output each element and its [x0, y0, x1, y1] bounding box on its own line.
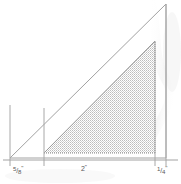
- inch-mark: ": [21, 165, 23, 171]
- technical-drawing-canvas: 5/8" 2" 1/4": [0, 0, 181, 184]
- dimension-label-middle: 2": [81, 165, 87, 172]
- dimension-label-left: 5/8": [13, 166, 23, 174]
- inch-mark: ": [85, 164, 87, 170]
- fraction-numerator: 5: [13, 166, 16, 172]
- dimension-label-right: 1/4": [157, 166, 167, 174]
- inch-mark: ": [165, 165, 167, 171]
- drawing-vector-layer: [0, 0, 181, 184]
- fraction-five-eighths: 5/8: [13, 167, 21, 174]
- fraction-numerator: 1: [157, 166, 160, 172]
- fraction-one-quarter: 1/4: [157, 167, 165, 174]
